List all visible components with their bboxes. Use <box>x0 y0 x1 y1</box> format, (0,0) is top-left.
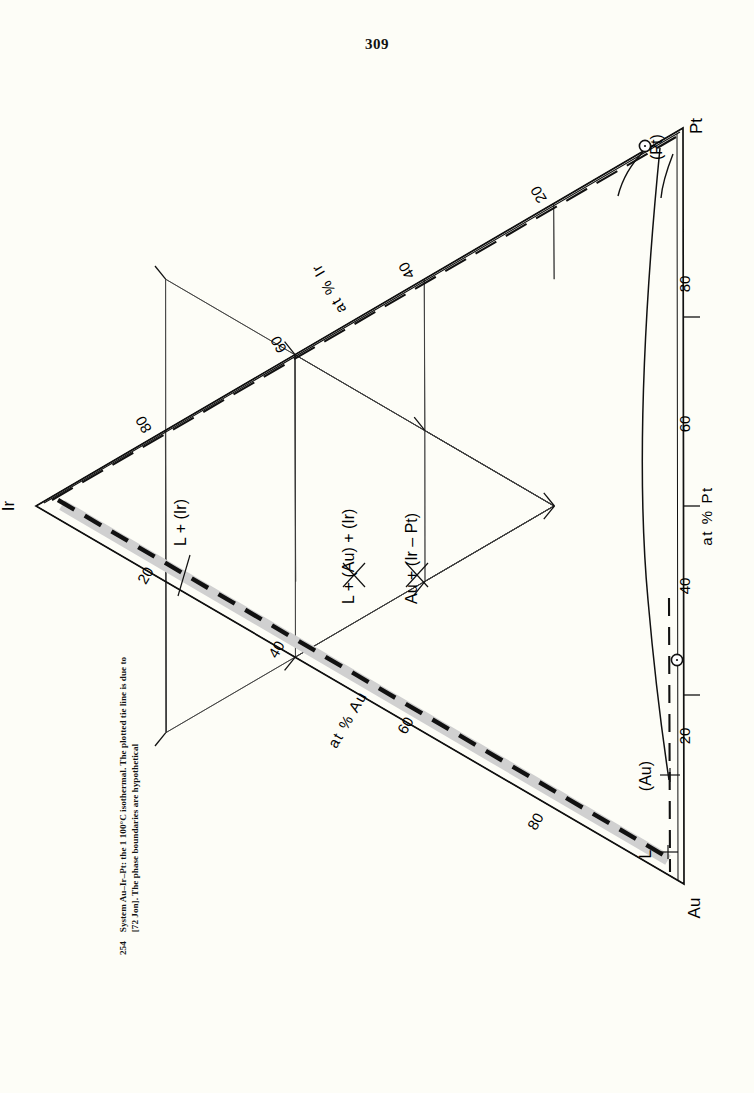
tick-label-ir-60: 60 <box>267 333 290 356</box>
diagram-grid <box>165 204 554 733</box>
phase-boundary-dashed-ir-pt <box>52 137 676 500</box>
figure-number: 254 <box>118 941 130 955</box>
tick-label-pt-20: 20 <box>676 728 693 745</box>
phase-label-l-au-ir: L + (Au) + (Ir) <box>340 509 357 604</box>
axis-title-au: at % Au <box>324 688 370 751</box>
tick-label-ir-40: 40 <box>395 259 418 282</box>
figure-caption-text: System Au–Ir–Pt: the 1 100°C isothermal.… <box>118 655 141 932</box>
tick-label-ir-20: 20 <box>527 183 550 206</box>
tick-label-pt-80: 80 <box>676 276 693 293</box>
au-pt-edge-inner-line <box>677 134 678 880</box>
figure-caption: 254 System Au–Ir–Pt: the 1 100°C isother… <box>118 655 141 955</box>
phase-label-pt: (Pt) <box>648 134 665 160</box>
corner-label-au: Au <box>685 898 704 919</box>
axis-title-ir: at % Ir <box>307 261 349 317</box>
marker-open-circle-mid <box>671 654 682 665</box>
phase-label-au-ir-pt: Au + (Ir – Pt) <box>403 513 420 604</box>
phase-label-l: L <box>637 849 654 858</box>
tick-label-au-80: 80 <box>524 810 547 833</box>
region-leader-lines <box>178 555 680 859</box>
axis-title-pt: at % Pt <box>698 486 715 546</box>
phase-label-l-ir: L + (Ir) <box>172 499 189 546</box>
corner-label-pt: Pt <box>687 118 706 134</box>
tick-label-pt-60: 60 <box>676 416 693 433</box>
pt-phase-boundary-curve <box>642 148 669 780</box>
phase-label-au: (Au) <box>637 761 654 791</box>
axis-ticks <box>155 266 700 746</box>
tick-label-ir-80: 80 <box>132 413 155 436</box>
phase-boundary-dashed-main <box>58 500 672 860</box>
ir-pt-edge-inner-line <box>44 132 680 503</box>
ternary-phase-diagram: Pt Au Ir at % Ir at % Au at % Pt 80 60 4… <box>0 0 754 1093</box>
tick-label-pt-40: 40 <box>676 578 693 595</box>
phase-boundary-dashed-au-pt <box>669 598 670 872</box>
tick-label-au-20: 20 <box>134 564 157 587</box>
corner-label-ir: Ir <box>0 500 18 511</box>
